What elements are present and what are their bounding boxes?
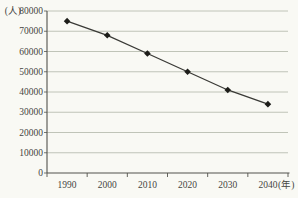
x-tick-label: 2000	[98, 180, 117, 190]
y-tick-label: 70000	[19, 26, 43, 36]
y-axis-unit-label: (人)	[5, 6, 21, 17]
population-projection-chart: 0100002000030000400005000060000700008000…	[0, 0, 298, 198]
x-tick-label: 2030	[218, 180, 237, 190]
x-tick-label: 2010	[138, 180, 157, 190]
x-tick-label: 1990	[58, 180, 77, 190]
y-tick-label: 0	[38, 168, 43, 178]
x-tick-label: 2020	[178, 180, 197, 190]
y-tick-label: 80000	[19, 6, 43, 16]
line-chart-canvas: 0100002000030000400005000060000700008000…	[0, 0, 298, 198]
y-tick-label: 60000	[19, 47, 43, 57]
y-tick-label: 40000	[19, 87, 43, 97]
y-tick-label: 20000	[19, 128, 43, 138]
y-tick-label: 30000	[19, 107, 43, 117]
x-tick-label: 2040	[258, 180, 277, 190]
x-axis-unit-label: (年)	[278, 179, 294, 191]
y-tick-label: 50000	[19, 67, 43, 77]
y-tick-label: 10000	[19, 148, 43, 158]
